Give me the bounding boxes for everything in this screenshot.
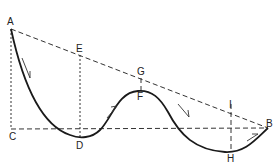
arrow-icon-ascending-DF (107, 106, 117, 118)
chord-AB (11, 29, 268, 128)
label-I: I (229, 99, 232, 110)
label-H: H (227, 153, 234, 164)
label-C: C (9, 131, 16, 142)
baseline-CB (11, 128, 268, 129)
label-A: A (7, 16, 14, 27)
label-F: F (137, 91, 143, 102)
path-diagram: A B C D E F G H I (0, 0, 279, 167)
label-B: B (266, 118, 273, 129)
label-E: E (76, 43, 83, 54)
label-G: G (137, 66, 145, 77)
label-D: D (76, 140, 83, 151)
arrow-icon-descending-FH (178, 104, 189, 117)
